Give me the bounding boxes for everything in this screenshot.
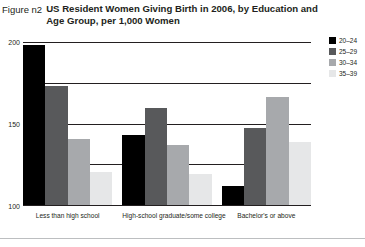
legend-swatch-icon [329, 37, 336, 44]
legend-item[interactable]: 35–39 [329, 68, 365, 78]
bar[interactable] [90, 172, 112, 205]
plot-area: 050100150200 [23, 42, 311, 205]
y-axis-tick-label: 100 [8, 203, 20, 210]
bar[interactable] [68, 139, 90, 205]
x-axis-label: Less than high school [23, 211, 112, 220]
bar-group [122, 42, 211, 205]
x-axis-label: High-school graduate/some college [122, 211, 211, 220]
legend-item-label: 20–24 [339, 37, 357, 44]
x-axis-labels: Less than high schoolHigh-school graduat… [23, 211, 311, 220]
legend-item[interactable]: 30–34 [329, 57, 365, 67]
bar-groups [23, 42, 311, 205]
chart-legend: 20–2425–2930–3435–39 [329, 35, 365, 79]
bar[interactable] [189, 174, 211, 205]
bar[interactable] [145, 108, 167, 205]
bar-group [23, 42, 112, 205]
bar[interactable] [23, 45, 45, 205]
legend-item-label: 25–29 [339, 48, 357, 55]
gridline: 0 [23, 205, 311, 206]
bar[interactable] [122, 135, 144, 205]
bar[interactable] [289, 142, 311, 205]
bar[interactable] [45, 86, 67, 205]
legend-item[interactable]: 25–29 [329, 46, 365, 56]
y-axis-tick-label: 200 [8, 39, 20, 46]
legend-item[interactable]: 20–24 [329, 35, 365, 45]
figure-header: Figure n2 US Resident Women Giving Birth… [0, 0, 365, 30]
bar[interactable] [266, 97, 288, 205]
figure-label: Figure n2 [2, 3, 42, 16]
legend-item-label: 30–34 [339, 59, 357, 66]
y-axis-tick-label: 150 [8, 121, 20, 128]
bar[interactable] [244, 128, 266, 205]
legend-item-label: 35–39 [339, 70, 357, 77]
bar[interactable] [167, 145, 189, 205]
bar[interactable] [222, 186, 244, 205]
figure-title: US Resident Women Giving Birth in 2006, … [46, 3, 332, 28]
x-axis-label: Bachelor's or above [222, 211, 311, 220]
legend-swatch-icon [329, 70, 336, 77]
bar-group [222, 42, 311, 205]
legend-swatch-icon [329, 48, 336, 55]
chart-container: 050100150200 Less than high schoolHigh-s… [0, 33, 365, 247]
legend-swatch-icon [329, 59, 336, 66]
figure-bottom-rule [0, 238, 365, 239]
